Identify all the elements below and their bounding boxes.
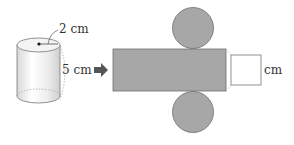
net-rectangle bbox=[113, 49, 226, 91]
net-top-circle bbox=[173, 8, 214, 49]
answer-unit-label: cm bbox=[264, 64, 282, 76]
cylinder bbox=[17, 30, 65, 103]
radius-label: 2 cm bbox=[59, 23, 89, 35]
height-label: 5 cm bbox=[62, 64, 92, 76]
cylinder-net bbox=[113, 8, 261, 133]
answer-box bbox=[231, 55, 261, 85]
diagram-canvas bbox=[0, 0, 294, 145]
arrow-icon bbox=[94, 63, 108, 77]
net-bottom-circle bbox=[173, 92, 214, 133]
